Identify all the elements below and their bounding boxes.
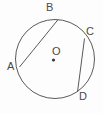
vertex-label-a: A bbox=[7, 61, 14, 72]
vertex-label-d: D bbox=[79, 91, 87, 102]
vertex-label-c: C bbox=[86, 26, 94, 37]
center-point-dot bbox=[52, 58, 55, 61]
center-label-o: O bbox=[52, 46, 61, 57]
chord-cd-line bbox=[78, 39, 85, 93]
circle-outline bbox=[16, 20, 95, 99]
vertex-label-b: B bbox=[46, 2, 53, 13]
circle-geometry-figure: O A B C D bbox=[0, 0, 103, 113]
